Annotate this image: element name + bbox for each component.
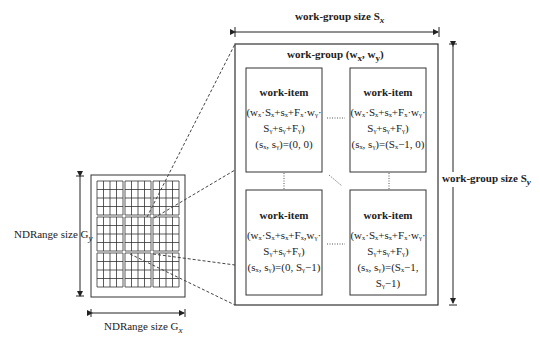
ndrange-size-x-label: NDRange size Gx [104,320,183,335]
work-group-size-x-label: work-group size Sx [295,10,384,25]
work-item-last-last: work-item (wₓ·Sₓ+sₓ+Fₓ·wᵧ·Sᵧ+sᵧ+Fᵧ)(sₓ, … [346,207,430,291]
work-item-last-0: work-item (wₓ·Sₓ+sₓ+Fₓ·wᵧ·Sᵧ+sᵧ+Fᵧ)(sₓ, … [348,84,428,152]
work-group-title: work-group (wx, wy) [287,48,384,63]
work-item-0-last: work-item (wₓ·Sₓ+sₓ+Fₓ,wᵧ·Sᵧ+sᵧ+Fᵧ)(sₓ, … [244,207,324,275]
diagram: work-group size Sx work-group (wx, wy) w… [0,0,540,343]
work-item-0-0: work-item (wₓ·Sₓ+sₓ+Fₓ·wᵧ·Sᵧ+sᵧ+Fᵧ)(sₓ, … [244,84,324,152]
work-group-size-y-label: work-group size Sy [442,172,531,187]
ndrange-size-y-label: NDRange size Gy [14,228,93,243]
